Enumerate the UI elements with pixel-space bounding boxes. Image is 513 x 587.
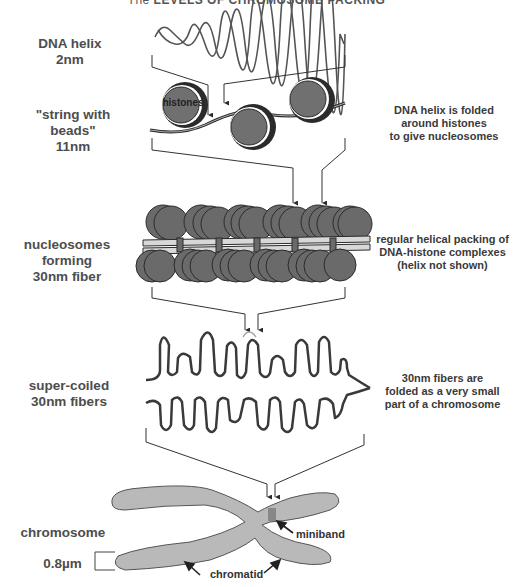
histones-label: histones (162, 97, 204, 108)
miniband-arrow-icon (277, 521, 293, 533)
miniband-label: miniband (296, 528, 345, 540)
supercoiled-fiber-icon (146, 332, 370, 432)
nucleosome-beads-icon: histones (150, 77, 345, 150)
chromatid-label: chromatid (210, 568, 263, 580)
connector-lines-3 (152, 287, 345, 330)
30nm-fiber-icon (136, 205, 372, 282)
diagram-artwork: histones (0, 0, 513, 587)
scale-bar (95, 552, 115, 570)
